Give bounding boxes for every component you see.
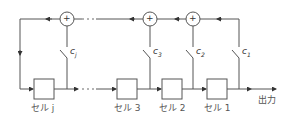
- output-label: 出力: [258, 96, 276, 105]
- cell-j-label: セル j: [31, 104, 54, 113]
- cell-1-label: セル 1: [204, 104, 231, 113]
- cell-3-label: セル 3: [114, 104, 141, 113]
- coefficient-c1: c1: [242, 47, 251, 58]
- adder-3: +: [146, 14, 154, 23]
- cell-2-label: セル 2: [159, 104, 186, 113]
- coefficient-c3: c3: [153, 47, 162, 58]
- coefficient-cj: cj: [70, 47, 77, 58]
- coefficient-c2: c2: [196, 47, 205, 58]
- lfsr-diagram: + + + cj c3 c2 c1 セル j セル 3 セル 2 セル 1 出力: [0, 0, 291, 121]
- adder-j: +: [63, 14, 71, 23]
- adder-2: +: [189, 14, 197, 23]
